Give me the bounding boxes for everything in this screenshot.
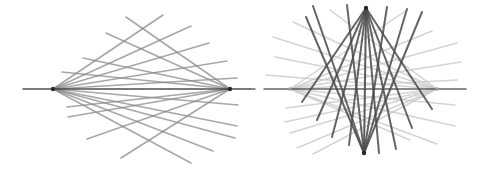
right-figure <box>250 5 466 155</box>
pivot-point <box>51 87 55 91</box>
fan-line <box>53 89 237 126</box>
line-pencil-diagram <box>0 0 487 175</box>
faint-pivot-point <box>288 87 292 91</box>
fan-line <box>106 33 230 89</box>
faint-pivot-point <box>435 87 439 91</box>
fan-line <box>53 26 191 89</box>
left-figure <box>23 15 250 163</box>
fan-line <box>53 43 209 89</box>
pivot-point <box>364 6 368 10</box>
faint-fan-line <box>330 10 437 89</box>
fan-line <box>53 89 213 151</box>
pivot-point <box>228 87 232 91</box>
pivot-point <box>362 151 366 155</box>
diagram-canvas: Two line-pencil diagrams: a light two-pi… <box>0 0 487 175</box>
